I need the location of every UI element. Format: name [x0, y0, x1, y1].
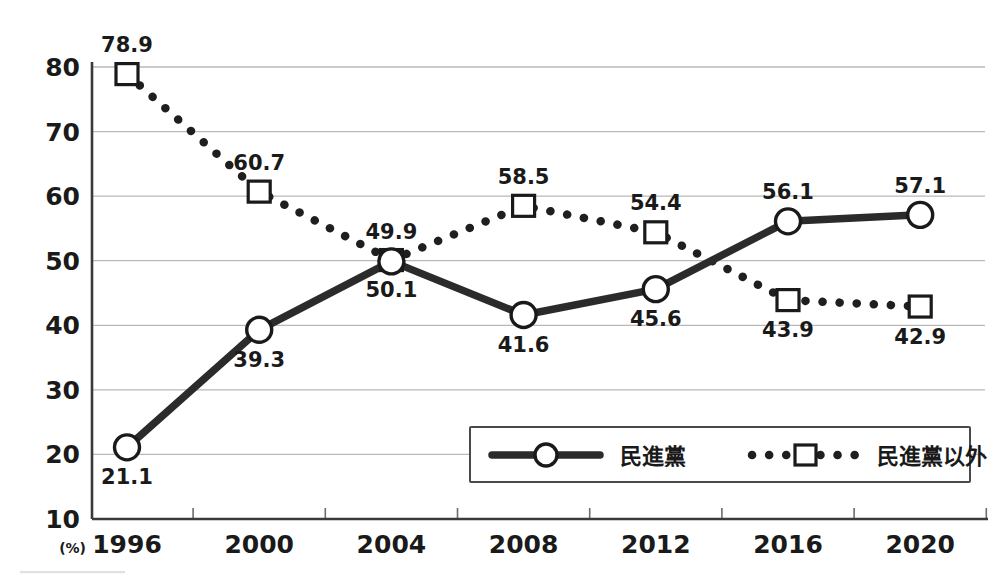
y-axis-tick-label: 30 [45, 376, 80, 405]
data-point-marker-circle[interactable] [643, 277, 668, 302]
data-point-value-label: 57.1 [894, 174, 946, 198]
legend-marker-circle-icon [535, 444, 557, 466]
data-point-marker-circle[interactable] [511, 302, 536, 327]
scan-artifact-line [20, 571, 125, 573]
data-point-marker-square[interactable] [909, 296, 931, 317]
y-axis-tick-label: 70 [45, 118, 80, 147]
data-point-value-label: 43.9 [762, 318, 814, 342]
legend-marker-square-icon [795, 445, 816, 465]
data-point-marker-square[interactable] [248, 181, 270, 202]
data-point-value-label: 21.1 [101, 465, 153, 489]
data-point-marker-square[interactable] [777, 290, 799, 311]
x-axis-tick-labels: 1996200020042008201220162020 [92, 530, 955, 559]
y-axis-tick-label: 10 [45, 505, 80, 534]
data-point-marker-circle[interactable] [776, 209, 801, 234]
data-point-value-label: 78.9 [101, 33, 153, 57]
data-point-value-label: 56.1 [762, 180, 814, 204]
data-point-marker-circle[interactable] [247, 317, 272, 342]
data-point-marker-square[interactable] [116, 64, 138, 85]
data-point-value-label: 60.7 [233, 151, 285, 175]
data-point-value-label: 54.4 [630, 191, 682, 215]
legend-label-other-parties: 民進黨以外 [877, 444, 987, 469]
gridlines-group [92, 67, 985, 454]
data-point-marker-square[interactable] [513, 195, 535, 216]
data-point-marker-circle[interactable] [908, 202, 933, 227]
chart-page: 1020304050607080 19962000200420082012201… [0, 0, 1008, 585]
x-axis-tick-label: 2016 [753, 530, 823, 559]
data-point-marker-circle[interactable] [115, 435, 140, 460]
y-axis-tick-label: 80 [45, 53, 80, 82]
data-point-marker-circle[interactable] [379, 249, 404, 274]
legend: 民進黨 民進黨以外 [470, 427, 987, 482]
x-axis-tick-label: 2008 [489, 530, 559, 559]
legend-label-dpp: 民進黨 [620, 444, 686, 469]
x-tickmarks-group [193, 508, 986, 519]
data-point-value-label: 42.9 [894, 325, 946, 349]
data-point-value-label: 50.1 [365, 278, 417, 302]
data-point-value-label: 58.5 [498, 165, 550, 189]
x-axis-tick-label: 2020 [885, 530, 955, 559]
x-axis-tick-label: 2012 [621, 530, 691, 559]
data-point-value-label: 39.3 [233, 348, 285, 372]
x-axis-tick-label: 2000 [224, 530, 294, 559]
data-point-value-label: 41.6 [498, 333, 550, 357]
y-axis-tick-label: 60 [45, 182, 80, 211]
line-chart: 1020304050607080 19962000200420082012201… [0, 0, 1008, 585]
y-axis-tick-labels: 1020304050607080 [45, 53, 80, 534]
data-point-value-label: 49.9 [365, 220, 417, 244]
x-axis-tick-label: 1996 [92, 530, 162, 559]
data-point-marker-square[interactable] [645, 222, 667, 243]
x-axis-tick-label: 2004 [357, 530, 427, 559]
y-axis-tick-label: 50 [45, 247, 80, 276]
y-axis-tick-label: 20 [45, 440, 80, 469]
data-point-value-label: 45.6 [630, 307, 682, 331]
y-axis-tick-label: 40 [45, 311, 80, 340]
y-axis-unit-label: (%) [59, 540, 86, 556]
